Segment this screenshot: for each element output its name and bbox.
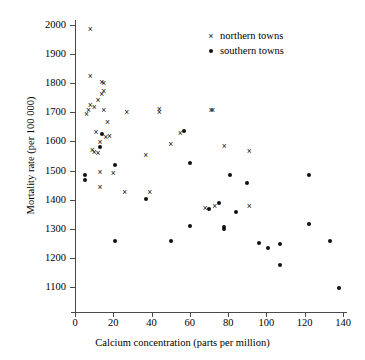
data-point-northern: × <box>146 189 153 196</box>
data-point-northern: × <box>209 107 216 114</box>
data-point-northern: × <box>110 170 117 177</box>
cross-marker-icon: × <box>205 30 217 42</box>
data-point-southern <box>222 227 226 231</box>
data-point-northern: × <box>121 189 128 196</box>
data-point-northern: × <box>100 88 107 95</box>
data-point-northern: × <box>96 184 103 191</box>
data-point-southern <box>182 129 186 133</box>
data-point-southern <box>278 242 282 246</box>
data-point-southern <box>228 173 232 177</box>
legend-item-southern: southern towns <box>205 43 284 58</box>
data-point-northern: × <box>93 129 100 136</box>
data-point-southern <box>83 178 87 182</box>
scatter-chart: 1100120013001400150016001700180019002000… <box>0 0 365 360</box>
data-point-northern: × <box>123 109 130 116</box>
data-point-southern <box>234 210 238 214</box>
data-point-southern <box>307 222 311 226</box>
data-point-southern <box>100 132 104 136</box>
data-point-southern <box>188 224 192 228</box>
data-point-southern <box>144 197 148 201</box>
data-point-northern: × <box>100 107 107 114</box>
chart-legend: × northern towns southern towns <box>205 28 284 58</box>
data-point-northern: × <box>246 148 253 155</box>
data-point-northern: × <box>246 203 253 210</box>
data-point-southern <box>169 239 173 243</box>
data-point-southern <box>83 173 87 177</box>
data-point-southern <box>266 246 270 250</box>
data-point-northern: × <box>85 107 92 114</box>
data-point-southern <box>207 207 211 211</box>
legend-label-southern: southern towns <box>217 45 284 57</box>
data-point-northern: × <box>156 109 163 116</box>
data-point-northern: × <box>87 73 94 80</box>
data-point-southern <box>245 181 249 185</box>
data-point-southern <box>257 241 261 245</box>
data-point-southern <box>217 201 221 205</box>
data-point-northern: × <box>94 150 101 157</box>
data-point-northern: × <box>167 141 174 148</box>
legend-item-northern: × northern towns <box>205 28 284 43</box>
data-point-southern <box>328 239 332 243</box>
data-point-southern <box>307 173 311 177</box>
data-point-southern <box>113 163 117 167</box>
data-point-northern: × <box>96 169 103 176</box>
legend-label-northern: northern towns <box>217 30 283 42</box>
data-point-southern <box>188 161 192 165</box>
data-point-southern <box>113 239 117 243</box>
data-point-southern <box>278 263 282 267</box>
plot-area: ×××××××××××××××××××××××××××××××××××××× <box>0 0 365 360</box>
data-point-northern: × <box>221 143 228 150</box>
data-point-northern: × <box>87 26 94 33</box>
data-point-northern: × <box>106 133 113 140</box>
dot-marker-icon <box>205 49 217 53</box>
data-point-northern: × <box>142 152 149 159</box>
data-point-southern <box>337 286 341 290</box>
data-point-northern: × <box>104 119 111 126</box>
